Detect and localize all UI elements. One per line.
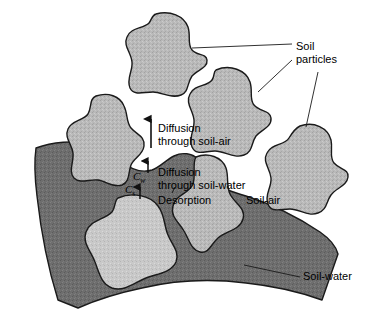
soil-air-label: Soil-air	[246, 194, 280, 207]
soil-particles-label: Soil particles	[296, 40, 337, 65]
soil-water-label: Soil-water	[303, 270, 352, 283]
concentration-sorbed-symbol: Cs	[125, 183, 135, 198]
diffusion-through-soil-air-label: Diffusion through soil-air	[158, 122, 231, 147]
leader-line-soil-particles-right	[306, 72, 318, 127]
leader-line-soil-particles-top	[192, 44, 292, 48]
soil-particle-top	[126, 13, 207, 96]
leader-line-soil-particles-middle	[258, 60, 292, 92]
desorption-label: Desorption	[158, 194, 211, 207]
cw-subscript: w	[140, 176, 145, 185]
figure-canvas: Soil particles Soil-air Soil-water Diffu…	[0, 0, 368, 326]
cs-subscript: s	[132, 189, 135, 198]
diffusion-through-soil-water-label: Diffusion through soil-water	[158, 166, 245, 191]
